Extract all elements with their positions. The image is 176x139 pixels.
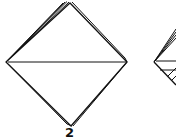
- step-2-diamond: [6, 2, 127, 127]
- step-3-diamond-partial: [154, 29, 176, 85]
- step-number-label: 2: [65, 126, 74, 139]
- fold-diagram: [0, 0, 176, 139]
